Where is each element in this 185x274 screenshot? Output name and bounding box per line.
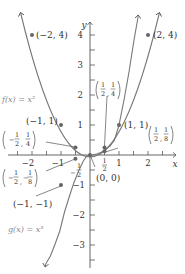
svg-text:2: 2 (14, 178, 18, 186)
g-arrow-bottom (45, 264, 46, 267)
y-tick-1: 1 (78, 120, 83, 130)
label-m-half-m-eighth: − 1 2 , − 1 8 (3, 169, 37, 187)
svg-text:,: , (20, 178, 22, 186)
label-1-1: (1, 1) (124, 120, 148, 130)
x-axis-label: x (172, 159, 177, 169)
svg-text:1: 1 (154, 126, 158, 134)
svg-text:2: 2 (101, 90, 105, 98)
label-origin: (0, 0) (96, 173, 120, 183)
y-tick-4: 4 (78, 30, 83, 40)
y-ticks (90, 35, 95, 260)
y-tick-labels: y 4 3 2 1 −1 −2 −3 (72, 20, 87, 250)
g-curve (46, 18, 138, 264)
svg-text:8: 8 (28, 178, 32, 186)
svg-text:4: 4 (26, 140, 30, 148)
point-half-eighth (103, 149, 107, 153)
svg-text:1: 1 (15, 131, 19, 139)
svg-text:−: − (70, 169, 75, 177)
x-tick-half: 1 2 (102, 157, 107, 173)
x-tick-m2: −2 (22, 158, 35, 168)
f-label: f(x) = x² (1, 95, 35, 104)
svg-text:1: 1 (26, 131, 30, 139)
label-m2-4: (−2, 4) (36, 30, 68, 40)
svg-text:1: 1 (111, 81, 115, 89)
x-tick-1: 1 (116, 158, 121, 168)
y-tick-m2: −2 (72, 210, 85, 220)
svg-text:4: 4 (111, 90, 115, 98)
label-half-quarter: 1 2 , 1 4 (96, 81, 120, 99)
svg-text:1: 1 (164, 126, 168, 134)
x-tick-labels: −2 −1 1 2 x (22, 158, 178, 169)
label-half-eighth: 1 2 , 1 8 (149, 126, 173, 144)
label-m1-m1: (−1, −1) (13, 199, 52, 209)
y-tick-3: 3 (78, 60, 83, 70)
point-m-half-quarter (74, 146, 78, 150)
svg-text:2: 2 (154, 135, 158, 143)
g-label: g(x) = x³ (8, 225, 43, 234)
svg-text:−: − (8, 174, 13, 182)
svg-text:1: 1 (102, 157, 106, 165)
y-tick-2: 2 (78, 90, 83, 100)
svg-text:8: 8 (164, 135, 168, 143)
point-m-half-m-eighth (74, 157, 78, 161)
x-tick-2: 2 (145, 158, 150, 168)
svg-text:,: , (107, 90, 109, 98)
y-tick-m3: −3 (72, 240, 85, 250)
point-m2-4 (30, 33, 34, 37)
point-origin (88, 153, 92, 157)
svg-text:−: − (9, 136, 14, 144)
function-graph: −2 −1 1 2 x 1 2 y 4 3 2 1 −1 −2 −3 − 1 2 (0, 0, 185, 274)
label-2-4: (2, 4) (153, 30, 177, 40)
label-m1-1: (−1, 1) (26, 116, 58, 126)
point-1-1 (117, 123, 121, 127)
point-2-4 (146, 33, 150, 37)
x-tick-m1: −1 (52, 158, 65, 168)
svg-text:1: 1 (14, 169, 18, 177)
svg-text:1: 1 (101, 81, 105, 89)
svg-text:,: , (160, 135, 162, 143)
y-axis-label: y (80, 20, 87, 30)
svg-text:2: 2 (102, 165, 106, 173)
point-m1-1 (59, 123, 63, 127)
point-half-quarter (103, 146, 107, 150)
svg-text:,: , (21, 140, 23, 148)
svg-text:1: 1 (28, 169, 32, 177)
label-m-half-quarter: − 1 2 , 1 4 (3, 131, 35, 149)
svg-text:2: 2 (15, 140, 19, 148)
